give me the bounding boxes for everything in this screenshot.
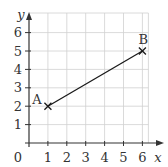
segment-ab [48, 51, 142, 106]
y-tick-label: 4 [14, 62, 22, 77]
x-tick-label: 6 [138, 150, 146, 165]
y-tick-label: 3 [14, 80, 22, 95]
x-tick-label: 1 [44, 150, 52, 165]
y-tick-label: 5 [14, 44, 22, 59]
point-a-label: A [31, 92, 42, 107]
x-tick-label: 0 [14, 150, 22, 165]
y-tick-label: 6 [14, 25, 22, 40]
x-tick-label: 3 [82, 150, 90, 165]
y-axis-label: y [16, 7, 25, 22]
x-axis-arrow-icon [156, 140, 164, 146]
grid [29, 13, 148, 143]
coordinate-plot: 0123456123456xyAB [0, 0, 168, 167]
y-tick-label: 1 [14, 117, 22, 132]
x-tick-label: 2 [63, 150, 71, 165]
x-tick-label: 4 [100, 150, 108, 165]
point-b-label: B [139, 32, 149, 47]
y-tick-label: 2 [14, 99, 22, 114]
x-tick-label: 5 [119, 150, 127, 165]
x-axis-label: x [154, 150, 162, 165]
